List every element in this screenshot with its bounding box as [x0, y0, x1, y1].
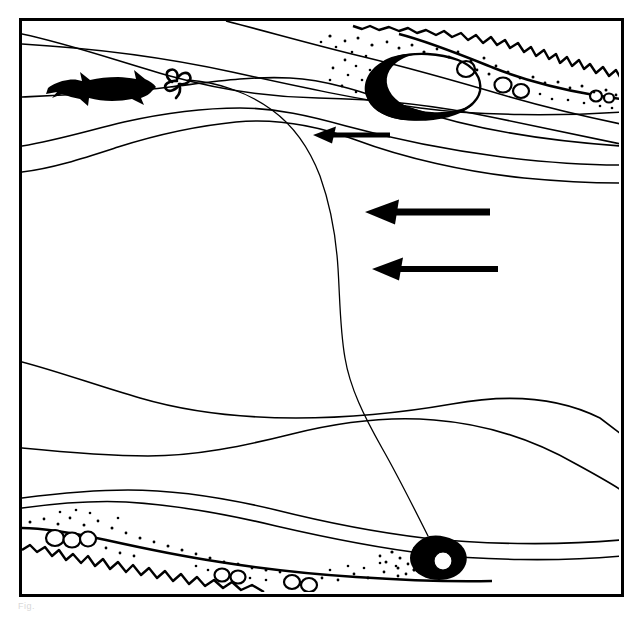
- pebble: [513, 84, 529, 98]
- pebble: [46, 530, 64, 546]
- arrow-shaft: [394, 209, 490, 216]
- pebble: [590, 91, 602, 102]
- pebble: [64, 533, 81, 548]
- pebble: [80, 532, 96, 547]
- arrow-shaft: [398, 266, 498, 272]
- river-fishing-illustration: [0, 0, 635, 618]
- pebble: [495, 78, 512, 93]
- pebble: [231, 571, 246, 584]
- figure-root: Fig.: [0, 0, 635, 618]
- pebble: [284, 575, 300, 589]
- arrow-shaft: [331, 133, 390, 138]
- pebble: [301, 578, 317, 592]
- pebble: [215, 569, 230, 582]
- pebble-group-lower-left: [46, 530, 96, 548]
- pebble: [604, 94, 614, 103]
- lure-eye: [434, 552, 452, 570]
- caption-fragment: Fig.: [18, 600, 198, 612]
